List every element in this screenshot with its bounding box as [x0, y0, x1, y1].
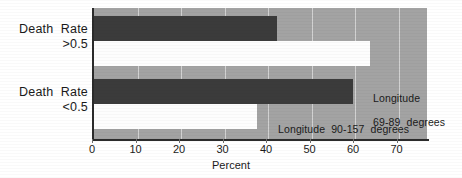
- x-axis-line: [92, 139, 429, 141]
- bar-death-rate-lt-0-5-longitude-90-157: [94, 104, 257, 129]
- x-tick-label: 60: [333, 143, 373, 155]
- bar-death-rate-gt-0-5-longitude-90-157: [94, 41, 370, 66]
- category-label-line2: <0.5: [2, 100, 88, 115]
- x-tick-label: 20: [159, 143, 199, 155]
- x-tick-label: 30: [203, 143, 243, 155]
- x-tick-label: 50: [290, 143, 330, 155]
- category-label-line1: Death Rate: [2, 22, 88, 37]
- annotation-line1: Longitude 90-157 degrees: [278, 123, 409, 135]
- bar-death-rate-gt-0-5-longitude-69-89: [94, 16, 277, 41]
- category-label-line1: Death Rate: [2, 85, 88, 100]
- x-tick-label: 0: [72, 143, 112, 155]
- x-tick-label: 70: [377, 143, 417, 155]
- x-tick-label: 10: [116, 143, 156, 155]
- category-label-death-rate-gt-0-5: Death Rate >0.5: [2, 22, 88, 51]
- x-tick-label: 40: [246, 143, 286, 155]
- category-label-line2: >0.5: [2, 37, 88, 52]
- category-label-death-rate-lt-0-5: Death Rate <0.5: [2, 85, 88, 114]
- bar-death-rate-lt-0-5-longitude-69-89: [94, 79, 353, 104]
- bar-chart-figure: Death Rate >0.5 Death Rate <0.5 Longitud…: [0, 0, 462, 178]
- annotation-longitude-90-157: Longitude 90-157 degrees: [260, 111, 409, 147]
- annotation-line1: Longitude: [373, 92, 420, 104]
- plot-area: Longitude 69-89 degrees Longitude 90-157…: [92, 8, 427, 139]
- x-axis-title: Percent: [0, 159, 462, 171]
